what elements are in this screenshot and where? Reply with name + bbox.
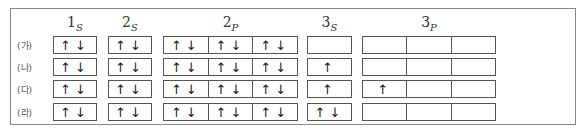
electron-cell: ↑↓ [253,104,297,120]
electron-cell: ↑↓ [209,59,254,75]
electron-cell: ↑↓ [164,37,209,53]
header-2p-main: 2 [223,14,232,30]
electron-cell [407,81,451,97]
electron-cell: ↑↓ [54,104,96,120]
electron-cell: ↑↓ [54,37,96,53]
header-2p-sub: P [232,22,239,33]
electron-cell: ↑ [308,81,351,97]
electron-cell [452,59,495,75]
orbital-box-3p [362,58,496,76]
header-1s-main: 1 [67,14,76,30]
orbital-box-3p: ↑ [362,80,496,98]
header-3s-main: 3 [322,14,331,30]
orbital-box-1s: ↑↓ [53,103,97,121]
electron-cell: ↑↓ [253,81,297,97]
orbital-box-3s: ↑ [307,80,352,98]
orbital-box-2s: ↑↓ [108,58,152,76]
electron-cell [363,59,407,75]
electron-cell [407,37,451,53]
header-3p-sub: P [430,22,437,33]
orbital-box-1s: ↑↓ [53,58,97,76]
electron-cell: ↑↓ [164,81,209,97]
orbital-box-1s: ↑↓ [53,80,97,98]
orbital-box-2p: ↑↓↑↓↑↓ [163,58,298,76]
orbital-box-3p [362,36,496,54]
electron-cell: ↑↓ [209,104,254,120]
orbital-box-2p: ↑↓↑↓↑↓ [163,36,298,54]
header-2s-sub: S [131,22,138,33]
electron-cell [308,37,351,53]
row-label-na: (나) [17,61,32,74]
electron-cell [452,37,495,53]
row-label-da: (다) [17,83,32,96]
electron-cell: ↑↓ [109,81,151,97]
electron-cell: ↑↓ [308,104,351,120]
orbital-box-2s: ↑↓ [108,103,152,121]
electron-cell [363,104,407,120]
orbital-box-3p [362,103,496,121]
electron-cell: ↑ [363,81,407,97]
electron-cell: ↑↓ [164,104,209,120]
orbital-box-1s: ↑↓ [53,36,97,54]
orbital-box-2s: ↑↓ [108,36,152,54]
electron-cell: ↑ [308,59,351,75]
electron-cell [407,59,451,75]
electron-cell: ↑↓ [164,59,209,75]
row-label-ga: (가) [17,39,32,52]
electron-cell: ↑↓ [109,37,151,53]
electron-cell: ↑↓ [109,104,151,120]
electron-cell: ↑↓ [209,37,254,53]
header-1s: 1S [53,14,97,33]
electron-cell: ↑↓ [253,59,297,75]
orbital-box-3s: ↑ [307,58,352,76]
header-3s: 3S [307,14,352,33]
header-3p: 3P [362,14,496,33]
electron-cell: ↑↓ [253,37,297,53]
orbital-box-3s [307,36,352,54]
orbital-box-2p: ↑↓↑↓↑↓ [163,103,298,121]
electron-cell [363,37,407,53]
electron-cell [407,104,451,120]
orbital-box-2p: ↑↓↑↓↑↓ [163,80,298,98]
electron-cell: ↑↓ [54,81,96,97]
electron-cell: ↑↓ [54,59,96,75]
header-3s-sub: S [331,22,338,33]
electron-cell [452,104,495,120]
header-3p-main: 3 [421,14,430,30]
row-label-ra: (라) [17,106,32,119]
electron-cell [452,81,495,97]
electron-cell: ↑↓ [109,59,151,75]
header-2s: 2S [108,14,152,33]
header-1s-sub: S [76,22,83,33]
orbital-box-2s: ↑↓ [108,80,152,98]
header-2s-main: 2 [122,14,131,30]
header-2p: 2P [163,14,298,33]
orbital-box-3s: ↑↓ [307,103,352,121]
electron-cell: ↑↓ [209,81,254,97]
